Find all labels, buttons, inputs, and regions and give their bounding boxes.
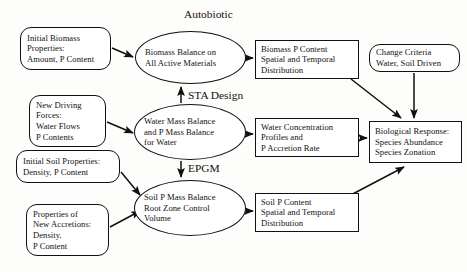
node-text-line: Distribution xyxy=(261,218,354,229)
node-new-accretions[interactable]: Properties of New Accretions: Density, P… xyxy=(26,204,109,256)
node-text-line: Spatial and Temporal xyxy=(261,54,354,65)
node-text-line: P Content xyxy=(33,241,103,252)
node-text-line: Soil P Content xyxy=(261,197,354,208)
node-change-criteria[interactable]: Change Criteria Water, Soil Driven xyxy=(369,44,460,72)
node-text-line: Forces: xyxy=(36,110,100,121)
node-text-line: Change Criteria xyxy=(376,47,454,58)
flow-diagram: Autobiotic STA Design EPGM Initial Bioma… xyxy=(0,0,467,272)
label-epgm: EPGM xyxy=(188,162,220,175)
node-biomass-balance[interactable]: Biomass Balance on All Active Materials xyxy=(135,31,246,84)
node-text-line: Biomass P Content xyxy=(261,44,354,55)
node-text-line: New Driving xyxy=(36,100,100,111)
node-text-line: and P Mass Balance xyxy=(144,127,236,138)
node-text-line: Water Mass Balance xyxy=(144,116,236,127)
node-text-line: Initial Soil Properties: xyxy=(23,156,114,167)
node-text-line: Water Concentration xyxy=(261,122,354,133)
node-text-line: Properties of xyxy=(33,209,103,220)
node-text-line: Initial Biomass xyxy=(27,33,105,44)
node-text-line: Root Zone Control xyxy=(144,203,236,214)
node-biomass-p-content[interactable]: Biomass P Content Spatial and Temporal D… xyxy=(255,40,359,79)
node-text-line: Biomass Balance on xyxy=(145,47,236,58)
edge-biomass-p-content-to-biological-response xyxy=(351,79,401,118)
node-text-line: Properties: xyxy=(27,43,105,54)
node-initial-biomass[interactable]: Initial Biomass Properties: Amount, P Co… xyxy=(20,27,111,70)
node-text-line: Water Flows xyxy=(36,121,100,132)
node-text-line: P Contents xyxy=(36,132,100,143)
node-text-line: Biological Response: xyxy=(375,126,457,137)
node-text-line: for Water xyxy=(144,137,236,148)
node-water-mass-balance[interactable]: Water Mass Balance and P Mass Balance fo… xyxy=(134,104,246,160)
edge-new-driving-to-water-mass xyxy=(107,122,133,133)
node-text-line: Amount, P Content xyxy=(27,54,105,65)
node-initial-soil-properties[interactable]: Initial Soil Properties: Density, P Cont… xyxy=(16,150,120,183)
label-autobiotic: Autobiotic xyxy=(184,8,233,21)
node-text-line: Spatial and Temporal xyxy=(261,207,354,218)
node-text-line: Species Abundance xyxy=(375,137,457,148)
node-text-line: Density, P Content xyxy=(23,167,114,178)
node-soil-p-mass-balance[interactable]: Soil P Mass Balance Root Zone Control Vo… xyxy=(134,180,246,236)
edge-initial-soil-to-soil-p-mass xyxy=(121,172,140,195)
node-soil-p-content[interactable]: Soil P Content Spatial and Temporal Dist… xyxy=(255,193,359,232)
node-water-concentration[interactable]: Water Concentration Profiles and P Accre… xyxy=(255,118,359,157)
node-text-line: Volume xyxy=(144,213,236,224)
node-text-line: Soil P Mass Balance xyxy=(144,192,236,203)
node-text-line: New Accretions: xyxy=(33,219,103,230)
node-text-line: Profiles and xyxy=(261,132,354,143)
edge-initial-biomass-to-biomass-balance xyxy=(112,48,133,57)
node-text-line: Species Zonation xyxy=(375,147,457,158)
node-text-line: All Active Materials xyxy=(145,58,236,69)
node-new-driving-forces[interactable]: New Driving Forces: Water Flows P Conten… xyxy=(29,95,106,147)
node-text-line: P Accretion Rate xyxy=(261,143,354,154)
node-text-line: Distribution xyxy=(261,65,354,76)
node-text-line: Density, xyxy=(33,230,103,241)
node-text-line: Water, Soil Driven xyxy=(376,58,454,69)
label-sta-design: STA Design xyxy=(188,89,243,102)
node-biological-response[interactable]: Biological Response: Species Abundance S… xyxy=(369,121,462,163)
